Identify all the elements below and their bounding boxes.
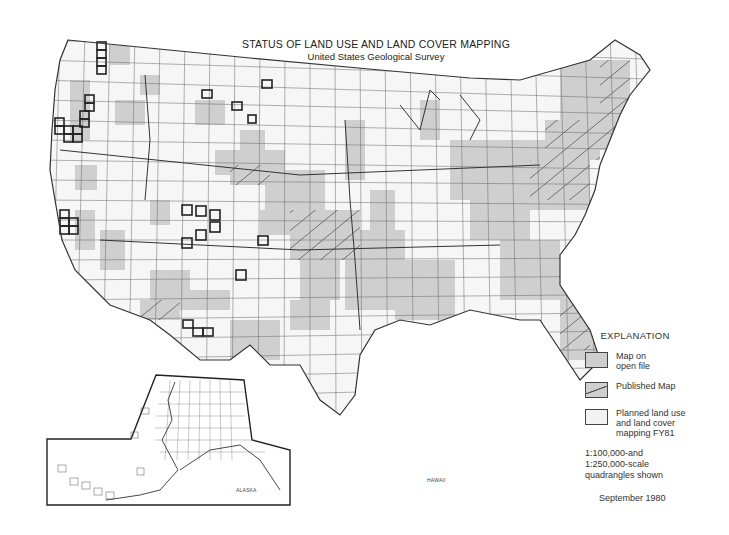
legend-heading: EXPLANATION bbox=[585, 330, 685, 341]
hawaii-label: HAWAII bbox=[427, 477, 446, 483]
scale-note: 1:100,000-and 1:250,000-scale quadrangle… bbox=[585, 448, 725, 481]
legend-item-published: Published Map bbox=[585, 381, 725, 398]
map-date: September 1980 bbox=[599, 493, 725, 503]
alaska-label: ALASKA bbox=[236, 487, 257, 493]
legend-item-open-file: Map on open file bbox=[585, 351, 725, 371]
legend-label: Planned land use and land cover mapping … bbox=[616, 408, 686, 438]
legend-item-planned: Planned land use and land cover mapping … bbox=[585, 408, 725, 438]
planned-swatch bbox=[585, 409, 608, 425]
legend: EXPLANATION Map on open file Published M… bbox=[585, 330, 725, 503]
map-subtitle: United States Geological Survey bbox=[226, 51, 526, 62]
legend-label: Map on open file bbox=[616, 351, 650, 371]
legend-label: Published Map bbox=[616, 381, 676, 391]
alaska-inset bbox=[47, 375, 290, 505]
conus-quadrangles bbox=[40, 30, 680, 430]
published-swatch bbox=[585, 382, 608, 398]
map-title: STATUS OF LAND USE AND LAND COVER MAPPIN… bbox=[226, 38, 526, 50]
open-file-swatch bbox=[585, 352, 608, 368]
